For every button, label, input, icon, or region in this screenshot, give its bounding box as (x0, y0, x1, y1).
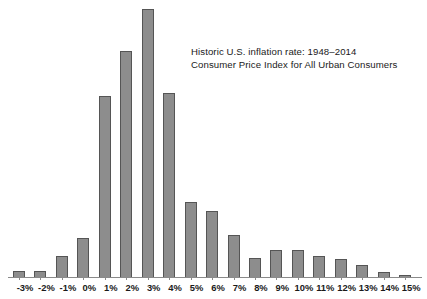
bar-rect (313, 256, 325, 278)
bar-rect (270, 250, 282, 278)
axis-tick (105, 278, 106, 280)
axis-tick (276, 278, 277, 280)
bar-rect (142, 9, 154, 278)
inflation-histogram-chart: -3%-2%-1%0%1%2%3%4%5%6%7%8%9%10%11%12%13… (0, 0, 427, 299)
axis-tick (319, 278, 320, 280)
axis-tick (191, 278, 192, 280)
axis-tick (148, 278, 149, 280)
chart-title: Historic U.S. inflation rate: 1948–2014 (191, 45, 421, 58)
bar-rect (120, 51, 132, 278)
axis-tick (62, 278, 63, 280)
bar-rect (292, 250, 304, 278)
bar-rect (185, 202, 197, 278)
axis-tick (405, 278, 406, 280)
bar-rect (335, 259, 347, 278)
chart-annotation-block: Historic U.S. inflation rate: 1948–2014 … (191, 45, 421, 71)
axis-tick (19, 278, 20, 280)
bar-rect (77, 238, 89, 278)
axis-tick (40, 278, 41, 280)
axis-tick (83, 278, 84, 280)
axis-tick (212, 278, 213, 280)
axis-tick (384, 278, 385, 280)
bar-rect (249, 258, 261, 278)
bar-rect (206, 211, 218, 278)
plot-area (0, 0, 427, 278)
bar-rect (163, 93, 175, 278)
axis-tick (126, 278, 127, 280)
axis-tick (298, 278, 299, 280)
axis-tick (234, 278, 235, 280)
x-tick-label: 15% (394, 281, 427, 295)
axis-tick (169, 278, 170, 280)
chart-subtitle: Consumer Price Index for All Urban Consu… (191, 58, 421, 71)
axis-tick (341, 278, 342, 280)
bar-rect (228, 235, 240, 278)
bar-rect (99, 96, 111, 278)
axis-tick (255, 278, 256, 280)
bar-rect (56, 256, 68, 278)
x-axis-label-group: -3%-2%-1%0%1%2%3%4%5%6%7%8%9%10%11%12%13… (0, 281, 427, 299)
axis-tick (362, 278, 363, 280)
x-axis-line (8, 277, 422, 278)
